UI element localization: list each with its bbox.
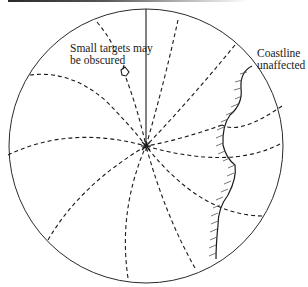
- dashed-line-s: [125, 146, 146, 278]
- small-target-icon: [121, 65, 129, 76]
- dashed-line-sw: [48, 146, 146, 240]
- center-origin-icon: [141, 141, 151, 151]
- dashed-line-w: [8, 137, 146, 155]
- coastline: [216, 66, 252, 259]
- dashed-line-sse: [146, 146, 195, 268]
- dashed-line-nne: [146, 20, 178, 146]
- coastline-hatching: [209, 72, 247, 256]
- dashed-line-e: [146, 144, 280, 158]
- small-targets-label: Small targets may be obscured: [70, 42, 160, 66]
- coastline-label: Coastline unaffected: [257, 47, 308, 71]
- dashed-line-ene: [146, 106, 282, 146]
- dashed-line-nnw-lower: [126, 78, 146, 146]
